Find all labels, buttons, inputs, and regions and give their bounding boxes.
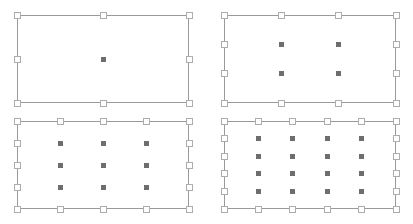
panel-top-right-handle-bottom-3[interactable]	[393, 100, 400, 107]
panel-bottom-right-handle-left-1[interactable]	[221, 135, 228, 142]
panel-bottom-left-handle-left-2[interactable]	[14, 162, 21, 169]
panel-top-left-handle-top-2[interactable]	[186, 12, 193, 19]
panel-bottom-left-handle-bottom-2[interactable]	[100, 206, 107, 213]
panel-bottom-left-handle-right-1[interactable]	[186, 140, 193, 147]
panel-bottom-right-handle-top-1[interactable]	[255, 118, 262, 125]
panel-top-right-handle-left-2[interactable]	[221, 70, 228, 77]
panel-bottom-left-dot-1-1[interactable]	[101, 163, 106, 168]
panel-bottom-right-handle-right-1[interactable]	[393, 135, 400, 142]
panel-bottom-right-handle-top-3[interactable]	[324, 118, 331, 125]
panel-bottom-right-handle-top-4[interactable]	[358, 118, 365, 125]
panel-bottom-right-handle-top-2[interactable]	[289, 118, 296, 125]
panel-bottom-left-dot-1-2[interactable]	[144, 163, 149, 168]
panel-bottom-right-dot-0-3[interactable]	[359, 136, 364, 141]
panel-bottom-right-handle-bottom-4[interactable]	[358, 206, 365, 213]
panel-bottom-left-dot-0-2[interactable]	[144, 141, 149, 146]
panel-bottom-left-dot-2-0[interactable]	[58, 185, 63, 190]
panel-top-right-dot-0-0[interactable]	[279, 42, 284, 47]
panel-bottom-right-dot-3-3[interactable]	[359, 189, 364, 194]
panel-bottom-right-handle-right-2[interactable]	[393, 153, 400, 160]
panel-bottom-right-dot-0-1[interactable]	[290, 136, 295, 141]
panel-bottom-right-dot-2-2[interactable]	[325, 171, 330, 176]
panel-bottom-right-handle-left-2[interactable]	[221, 153, 228, 160]
panel-top-right-dot-1-0[interactable]	[279, 71, 284, 76]
panel-bottom-right-dot-1-2[interactable]	[325, 154, 330, 159]
panel-bottom-left-handle-bottom-1[interactable]	[57, 206, 64, 213]
panel-bottom-right-dot-2-1[interactable]	[290, 171, 295, 176]
panel-bottom-right-rectangle[interactable]	[224, 121, 396, 209]
panel-top-right-handle-bottom-2[interactable]	[335, 100, 342, 107]
panel-bottom-left-handle-right-2[interactable]	[186, 162, 193, 169]
panel-top-right-rectangle[interactable]	[224, 15, 396, 103]
panel-bottom-left-dot-0-0[interactable]	[58, 141, 63, 146]
panel-bottom-left-handle-bottom-0[interactable]	[14, 206, 21, 213]
panel-top-right-handle-top-2[interactable]	[335, 12, 342, 19]
panel-top-right-handle-top-0[interactable]	[221, 12, 228, 19]
panel-top-right-handle-top-3[interactable]	[393, 12, 400, 19]
panel-top-right-handle-right-1[interactable]	[393, 41, 400, 48]
panel-bottom-right-dot-0-2[interactable]	[325, 136, 330, 141]
panel-top-left-handle-top-1[interactable]	[100, 12, 107, 19]
panel-bottom-right-dot-1-1[interactable]	[290, 154, 295, 159]
panel-bottom-right-handle-bottom-0[interactable]	[221, 206, 228, 213]
panel-top-right-dot-0-1[interactable]	[336, 42, 341, 47]
panel-bottom-left-handle-top-2[interactable]	[100, 118, 107, 125]
panel-bottom-left-dot-2-2[interactable]	[144, 185, 149, 190]
panel-bottom-right-dot-3-0[interactable]	[256, 189, 261, 194]
panel-bottom-right-handle-top-0[interactable]	[221, 118, 228, 125]
panel-bottom-right-dot-1-0[interactable]	[256, 154, 261, 159]
panel-bottom-left-dot-2-1[interactable]	[101, 185, 106, 190]
panel-top-left-handle-bottom-2[interactable]	[186, 100, 193, 107]
panel-bottom-right-handle-top-5[interactable]	[393, 118, 400, 125]
panel-top-left[interactable]	[17, 15, 189, 103]
panel-top-left-handle-bottom-1[interactable]	[100, 100, 107, 107]
panel-bottom-left-handle-bottom-3[interactable]	[143, 206, 150, 213]
panel-bottom-right-handle-bottom-3[interactable]	[324, 206, 331, 213]
panel-bottom-right-dot-3-2[interactable]	[325, 189, 330, 194]
panel-bottom-left-handle-right-3[interactable]	[186, 184, 193, 191]
panel-top-left-handle-left-1[interactable]	[14, 56, 21, 63]
panel-bottom-right-handle-left-4[interactable]	[221, 188, 228, 195]
panel-bottom-left-handle-top-0[interactable]	[14, 118, 21, 125]
panel-top-right[interactable]	[224, 15, 396, 103]
panel-top-right-handle-bottom-0[interactable]	[221, 100, 228, 107]
panel-bottom-right[interactable]	[224, 121, 396, 209]
panel-top-right-handle-left-1[interactable]	[221, 41, 228, 48]
panel-top-left-handle-right-1[interactable]	[186, 56, 193, 63]
panel-bottom-left-dot-1-0[interactable]	[58, 163, 63, 168]
panel-top-right-handle-bottom-1[interactable]	[278, 100, 285, 107]
panel-bottom-right-dot-3-1[interactable]	[290, 189, 295, 194]
panel-top-right-dot-1-1[interactable]	[336, 71, 341, 76]
panel-bottom-right-handle-left-3[interactable]	[221, 170, 228, 177]
panel-bottom-left-handle-bottom-4[interactable]	[186, 206, 193, 213]
panel-bottom-right-handle-right-3[interactable]	[393, 170, 400, 177]
panel-bottom-left-handle-top-3[interactable]	[143, 118, 150, 125]
panel-bottom-left-handle-top-1[interactable]	[57, 118, 64, 125]
panel-top-right-handle-right-2[interactable]	[393, 70, 400, 77]
panel-top-left-handle-top-0[interactable]	[14, 12, 21, 19]
panel-bottom-right-dot-2-3[interactable]	[359, 171, 364, 176]
panel-bottom-left[interactable]	[17, 121, 189, 209]
panel-bottom-right-dot-1-3[interactable]	[359, 154, 364, 159]
panel-bottom-left-dot-0-1[interactable]	[101, 141, 106, 146]
panel-bottom-right-dot-2-0[interactable]	[256, 171, 261, 176]
panel-top-left-handle-bottom-0[interactable]	[14, 100, 21, 107]
panel-bottom-right-handle-bottom-2[interactable]	[289, 206, 296, 213]
selection-canvas	[0, 0, 413, 224]
panel-bottom-right-handle-bottom-1[interactable]	[255, 206, 262, 213]
panel-bottom-left-handle-top-4[interactable]	[186, 118, 193, 125]
panel-bottom-left-handle-left-3[interactable]	[14, 184, 21, 191]
panel-bottom-left-handle-left-1[interactable]	[14, 140, 21, 147]
panel-top-left-dot-0-0[interactable]	[101, 57, 106, 62]
panel-top-right-handle-top-1[interactable]	[278, 12, 285, 19]
panel-bottom-right-handle-bottom-5[interactable]	[393, 206, 400, 213]
panel-bottom-right-dot-0-0[interactable]	[256, 136, 261, 141]
panel-bottom-right-handle-right-4[interactable]	[393, 188, 400, 195]
